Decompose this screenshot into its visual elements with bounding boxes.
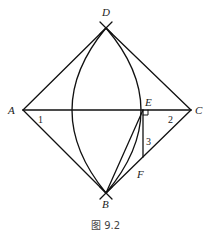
label-F: F (136, 168, 144, 180)
label-E: E (144, 96, 152, 108)
right-angle-marker (143, 110, 148, 115)
label-D: D (101, 6, 110, 18)
angle-label-2: 2 (168, 114, 173, 125)
angle-label-3: 3 (146, 136, 151, 147)
segment-AB (23, 110, 106, 193)
label-A: A (7, 104, 15, 116)
segment-AD (23, 28, 106, 110)
label-B: B (102, 198, 109, 210)
segment-BE (106, 110, 143, 193)
label-C: C (195, 104, 203, 116)
geometry-diagram: D A C E F B 1 2 3 图 9.2 (0, 0, 211, 233)
angle-label-1: 1 (38, 114, 43, 125)
segment-BC (106, 110, 191, 193)
figure-caption: 图 9.2 (91, 220, 120, 231)
